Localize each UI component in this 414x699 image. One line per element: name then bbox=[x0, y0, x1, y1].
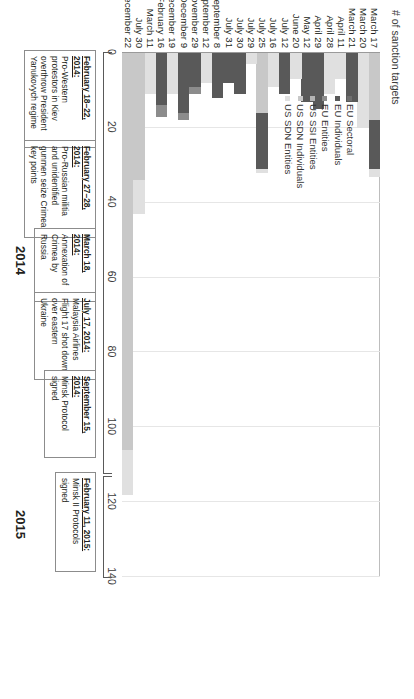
bar-segment bbox=[156, 105, 168, 116]
category-label: March 11 bbox=[145, 9, 156, 48]
gridline bbox=[122, 277, 380, 278]
legend-item[interactable]: US SSI Entities bbox=[306, 96, 318, 188]
bar bbox=[167, 53, 179, 94]
category-label: September 8 bbox=[212, 0, 223, 48]
legend-item[interactable]: US SDN Entities bbox=[282, 96, 294, 188]
bar bbox=[357, 53, 369, 128]
annotation-text: Minsk Protocol signed bbox=[49, 376, 70, 452]
category-label: March 20 bbox=[358, 8, 369, 48]
category-label: July 31 bbox=[224, 18, 235, 48]
year-bracket bbox=[103, 476, 112, 578]
legend-swatch-icon bbox=[347, 96, 352, 101]
category-label: May 12 bbox=[302, 17, 313, 48]
legend-swatch-icon bbox=[298, 96, 303, 101]
bar-segment bbox=[279, 53, 291, 94]
bar bbox=[279, 53, 291, 94]
bar bbox=[144, 53, 156, 94]
bar bbox=[369, 53, 381, 177]
category-axis-labels: March 17March 20March 21April 11April 28… bbox=[122, 0, 380, 52]
bar-segment bbox=[256, 169, 268, 173]
chart-canvas: # of sanction targets 020406080100120140… bbox=[0, 0, 414, 699]
category-label: July 30 bbox=[134, 18, 145, 48]
legend-item[interactable]: EU Entities bbox=[319, 96, 331, 188]
gridline bbox=[122, 576, 380, 577]
bar-segment bbox=[223, 53, 235, 83]
category-label: July 12 bbox=[280, 18, 291, 48]
bar-segment bbox=[346, 53, 358, 102]
bar bbox=[324, 53, 336, 94]
category-label: April 28 bbox=[325, 15, 336, 48]
legend-item[interactable]: EU Sectoral bbox=[344, 96, 356, 188]
bar-segment bbox=[122, 450, 134, 495]
annotation-date: March 18, 2014: bbox=[71, 234, 92, 296]
legend-swatch-icon bbox=[310, 96, 315, 101]
category-label: September 12 bbox=[201, 0, 212, 48]
legend-item[interactable]: US SDN Individuals bbox=[294, 96, 306, 188]
category-label: December 19 bbox=[167, 0, 178, 48]
annotation-note: February 11, 2015:Minsk II Protocols sig… bbox=[55, 472, 96, 572]
legend-swatch-icon bbox=[285, 96, 290, 101]
bar bbox=[256, 53, 268, 173]
bar-segment bbox=[234, 53, 246, 94]
category-label: December 22 bbox=[123, 0, 134, 48]
category-label: November 29 bbox=[190, 0, 201, 48]
bar-segment bbox=[189, 53, 201, 87]
gridline bbox=[122, 202, 380, 203]
category-label: July 16 bbox=[268, 18, 279, 48]
bar-segment bbox=[178, 53, 190, 113]
legend-label: US SDN Entities bbox=[282, 104, 294, 174]
category-label: July 29 bbox=[246, 18, 257, 48]
annotation-text: Pro-Western protestors in Kiev overthrow… bbox=[29, 56, 71, 142]
annotation-text: Minsk II Protocols signed bbox=[60, 478, 81, 566]
category-label: July 30 bbox=[235, 18, 246, 48]
category-label: December 9 bbox=[179, 0, 190, 48]
year-label: 2015 bbox=[13, 510, 28, 539]
legend-swatch-icon bbox=[322, 96, 327, 101]
annotation-date: February 18–22, 2014: bbox=[71, 56, 92, 142]
legend-label: US SDN Individuals bbox=[294, 104, 306, 188]
year-bracket bbox=[103, 52, 112, 474]
gridline bbox=[122, 351, 380, 352]
rotated-chart-canvas: # of sanction targets 020406080100120140… bbox=[0, 0, 414, 699]
bar-segment bbox=[369, 169, 381, 176]
bar-segment bbox=[268, 53, 280, 87]
bar bbox=[122, 53, 134, 495]
legend-label: EU Sectoral bbox=[344, 104, 356, 155]
gridline bbox=[122, 426, 380, 427]
annotation-text: Pro-Russian militia and unidentified gun… bbox=[29, 146, 71, 232]
bar bbox=[200, 53, 212, 83]
annotation-note: February 27–28, 2014:Pro-Russian militia… bbox=[24, 140, 96, 238]
annotation-date: September 15, 2014: bbox=[71, 376, 92, 452]
bar bbox=[290, 53, 302, 79]
legend-item[interactable]: EU Individuals bbox=[331, 96, 343, 188]
bar-segment bbox=[369, 120, 381, 169]
bar-segment bbox=[144, 53, 156, 94]
annotation-note: September 15, 2014:Minsk Protocol signed bbox=[44, 370, 96, 458]
bar-segment bbox=[133, 180, 145, 214]
annotation-note: July 17, 2014:Malaysia Airlines Flight 1… bbox=[34, 292, 96, 380]
annotation-text: Malaysia Airlines Flight 17 shot down ov… bbox=[39, 298, 81, 374]
bar bbox=[178, 53, 190, 120]
bar-segment bbox=[189, 87, 201, 94]
category-label: February 16 bbox=[156, 0, 167, 48]
bar bbox=[245, 53, 257, 64]
bar-segment bbox=[200, 53, 212, 83]
category-label: June 20 bbox=[291, 14, 302, 48]
bar bbox=[301, 53, 313, 102]
category-label: March 21 bbox=[347, 8, 358, 48]
category-label: July 25 bbox=[257, 18, 268, 48]
gridline bbox=[122, 501, 380, 502]
bar bbox=[223, 53, 235, 83]
bar-segment bbox=[301, 53, 313, 102]
bar-segment bbox=[369, 53, 381, 120]
annotation-note: March 18, 2014:Annexation of Crimea by R… bbox=[34, 228, 96, 302]
legend-label: US SSI Entities bbox=[306, 104, 318, 170]
category-label: April 11 bbox=[336, 16, 347, 48]
annotation-date: July 17, 2014: bbox=[82, 298, 92, 374]
category-label: April 29 bbox=[313, 15, 324, 48]
bar bbox=[346, 53, 358, 102]
bar-segment bbox=[324, 53, 336, 94]
annotation-date: February 11, 2015: bbox=[82, 478, 92, 566]
bar-segment bbox=[335, 53, 347, 79]
bar-segment bbox=[133, 53, 145, 180]
